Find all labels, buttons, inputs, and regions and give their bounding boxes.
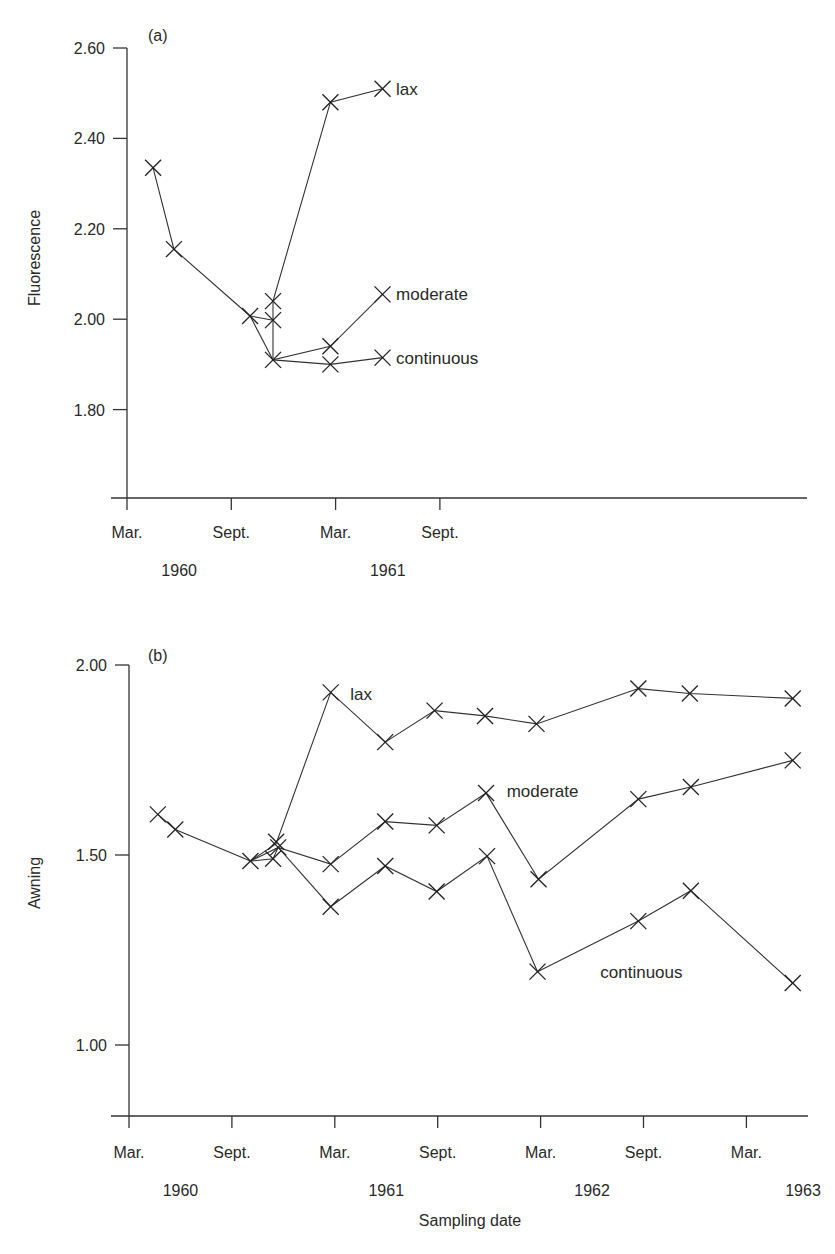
year-label: 1960: [163, 1182, 199, 1199]
x-tick-label: Sept.: [421, 524, 458, 541]
x-marker-icon: [528, 716, 544, 732]
panel-a-y-axis-title: Fluorescence: [26, 210, 43, 306]
x-marker-icon: [375, 350, 391, 366]
y-tick-label: 2.60: [74, 40, 105, 57]
year-label: 1961: [368, 1182, 404, 1199]
panel-b-ticks: 2.001.501.00Mar.Sept.Mar.Sept.Mar.Sept.M…: [76, 657, 821, 1199]
y-tick-label: 2.40: [74, 130, 105, 147]
y-tick-label: 2.00: [74, 311, 105, 328]
panel-a-markers: [145, 81, 390, 373]
x-marker-icon: [377, 858, 393, 874]
x-marker-icon: [477, 708, 493, 724]
x-marker-icon: [785, 975, 801, 991]
x-marker-icon: [167, 822, 183, 838]
year-label: 1963: [785, 1182, 821, 1199]
figure: 2.602.402.202.001.80Mar.Sept.Mar.Sept.19…: [0, 0, 835, 1254]
series-label-continuous: continuous: [396, 349, 478, 368]
x-marker-icon: [323, 684, 339, 700]
series-label-moderate: moderate: [396, 285, 468, 304]
x-marker-icon: [531, 871, 547, 887]
y-tick-label: 2.00: [76, 657, 107, 674]
x-marker-icon: [479, 848, 495, 864]
x-marker-icon: [166, 241, 182, 257]
x-marker-icon: [145, 160, 161, 176]
y-tick-label: 2.20: [74, 221, 105, 238]
panel-b-axes: [111, 665, 808, 1116]
x-marker-icon: [242, 308, 258, 324]
x-marker-icon: [322, 94, 338, 110]
x-tick-label: Mar.: [319, 1144, 350, 1161]
x-marker-icon: [683, 883, 699, 899]
x-marker-icon: [630, 681, 646, 697]
x-marker-icon: [630, 791, 646, 807]
y-tick-label: 1.80: [74, 402, 105, 419]
x-tick-label: Mar.: [320, 524, 351, 541]
panel-a-axes: [111, 48, 807, 498]
panel-b-awning-chart: 2.001.501.00Mar.Sept.Mar.Sept.Mar.Sept.M…: [26, 647, 821, 1229]
x-marker-icon: [429, 883, 445, 899]
panel-b-series: [158, 689, 793, 984]
x-marker-icon: [427, 703, 443, 719]
x-marker-icon: [683, 779, 699, 795]
panel-a-series: [153, 89, 382, 365]
panel-b-series-labels: laxmoderatecontinuous: [350, 685, 682, 982]
series-label-moderate: moderate: [507, 782, 579, 801]
x-tick-label: Sept.: [419, 1144, 456, 1161]
year-label: 1960: [161, 562, 197, 579]
series-line-continuous: [250, 847, 792, 983]
x-marker-icon: [323, 899, 339, 915]
x-marker-icon: [478, 785, 494, 801]
series-line-moderate: [250, 760, 792, 879]
x-tick-label: Mar.: [731, 1144, 762, 1161]
y-tick-label: 1.00: [76, 1037, 107, 1054]
panel-a-series-labels: laxmoderatecontinuous: [396, 80, 478, 368]
series-label-continuous: continuous: [600, 963, 682, 982]
year-label: 1962: [574, 1182, 610, 1199]
x-marker-icon: [375, 286, 391, 302]
x-tick-label: Sept.: [625, 1144, 662, 1161]
x-marker-icon: [785, 752, 801, 768]
x-marker-icon: [150, 806, 166, 822]
series-line-lax: [250, 689, 792, 862]
x-marker-icon: [630, 913, 646, 929]
x-tick-label: Mar.: [525, 1144, 556, 1161]
panel-b-markers: [150, 681, 801, 992]
x-tick-label: Mar.: [111, 524, 142, 541]
year-label: 1961: [370, 562, 406, 579]
series-label-lax: lax: [396, 80, 418, 99]
panel-a-label: (a): [148, 27, 168, 44]
series-label-lax: lax: [350, 685, 372, 704]
series-line-shared: [153, 168, 250, 316]
x-marker-icon: [530, 964, 546, 980]
x-axis-title: Sampling date: [419, 1212, 521, 1229]
x-marker-icon: [322, 338, 338, 354]
panel-b-label: (b): [148, 647, 168, 664]
x-marker-icon: [375, 81, 391, 97]
x-marker-icon: [268, 834, 284, 850]
x-marker-icon: [323, 856, 339, 872]
panel-b-y-axis-title: Awning: [26, 857, 43, 909]
x-tick-label: Sept.: [213, 524, 250, 541]
series-line-shared: [158, 814, 251, 861]
x-marker-icon: [377, 734, 393, 750]
x-tick-label: Mar.: [113, 1144, 144, 1161]
x-tick-label: Sept.: [213, 1144, 250, 1161]
y-tick-label: 1.50: [76, 847, 107, 864]
series-line-lax: [273, 89, 383, 320]
panel-a-fluorescence-chart: 2.602.402.202.001.80Mar.Sept.Mar.Sept.19…: [26, 27, 807, 579]
